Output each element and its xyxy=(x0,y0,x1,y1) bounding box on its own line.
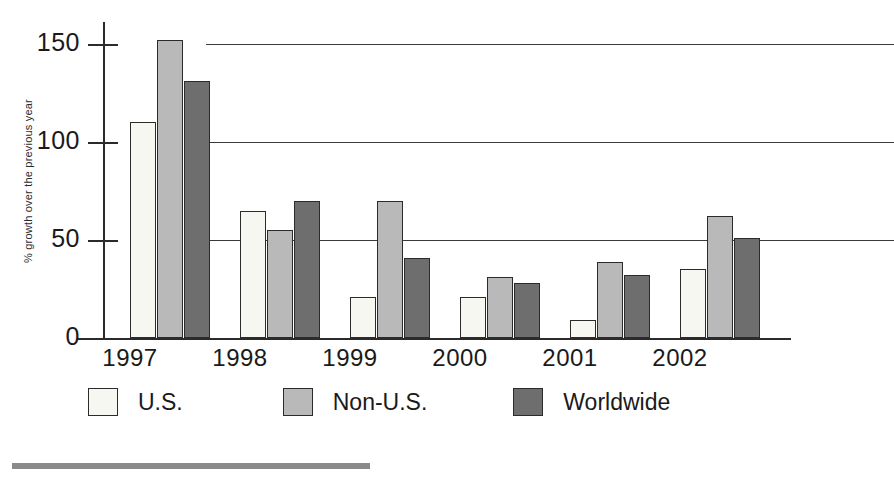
bar-1999-worldwide[interactable] xyxy=(404,258,430,338)
bar-2002-us[interactable] xyxy=(680,269,706,338)
ytick-mark-150 xyxy=(88,44,118,46)
bar-2000-worldwide[interactable] xyxy=(514,283,540,338)
bar-1997-us[interactable] xyxy=(130,122,156,338)
bar-2002-non-us[interactable] xyxy=(707,216,733,338)
xtick-label-1997: 1997 xyxy=(75,344,185,372)
value-axis-line xyxy=(103,22,105,339)
legend-entry-us[interactable]: U.S. xyxy=(88,388,183,416)
bar-1997-worldwide[interactable] xyxy=(184,81,210,338)
ytick-label-0: 0 xyxy=(0,322,80,351)
bar-group-2001 xyxy=(570,22,680,338)
bar-group-2000 xyxy=(460,22,570,338)
bar-group-1999 xyxy=(350,22,460,338)
bar-2000-non-us[interactable] xyxy=(487,277,513,338)
bar-2001-worldwide[interactable] xyxy=(624,275,650,338)
bar-2000-us[interactable] xyxy=(460,297,486,338)
legend-label-non-us: Non-U.S. xyxy=(333,389,428,416)
bar-1998-worldwide[interactable] xyxy=(294,201,320,338)
bar-group-2002 xyxy=(680,22,790,338)
bar-2001-us[interactable] xyxy=(570,320,596,338)
bar-1999-us[interactable] xyxy=(350,297,376,338)
bar-1998-us[interactable] xyxy=(240,211,266,338)
bar-group-1998 xyxy=(240,22,350,338)
ytick-label-50: 50 xyxy=(0,224,80,253)
bar-1997-non-us[interactable] xyxy=(157,40,183,338)
legend-swatch-non-us xyxy=(283,388,313,416)
xtick-label-2000: 2000 xyxy=(405,344,515,372)
value-axis-title: % growth over the previous year xyxy=(22,44,34,319)
bottom-divider-rule xyxy=(12,463,370,469)
bar-group-1997 xyxy=(130,22,240,338)
legend-entry-worldwide[interactable]: Worldwide xyxy=(513,388,670,416)
legend-entry-non-us[interactable]: Non-U.S. xyxy=(283,388,428,416)
legend-swatch-us xyxy=(88,388,118,416)
bar-2002-worldwide[interactable] xyxy=(734,238,760,338)
ytick-label-100: 100 xyxy=(0,126,80,155)
chart-legend: U.S. Non-U.S. Worldwide xyxy=(88,388,670,416)
xtick-label-1998: 1998 xyxy=(185,344,295,372)
legend-label-us: U.S. xyxy=(138,389,183,416)
xtick-label-2001: 2001 xyxy=(515,344,625,372)
bar-1999-non-us[interactable] xyxy=(377,201,403,338)
ytick-mark-0 xyxy=(88,338,118,340)
ytick-mark-100 xyxy=(88,142,118,144)
bar-2001-non-us[interactable] xyxy=(597,262,623,338)
legend-swatch-worldwide xyxy=(513,388,543,416)
plot-area xyxy=(103,22,770,338)
xtick-label-1999: 1999 xyxy=(295,344,405,372)
legend-label-worldwide: Worldwide xyxy=(563,389,670,416)
ytick-mark-50 xyxy=(88,240,118,242)
xtick-label-2002: 2002 xyxy=(625,344,735,372)
category-axis-line xyxy=(77,338,791,340)
ytick-label-150: 150 xyxy=(0,28,80,57)
bar-1998-non-us[interactable] xyxy=(267,230,293,338)
